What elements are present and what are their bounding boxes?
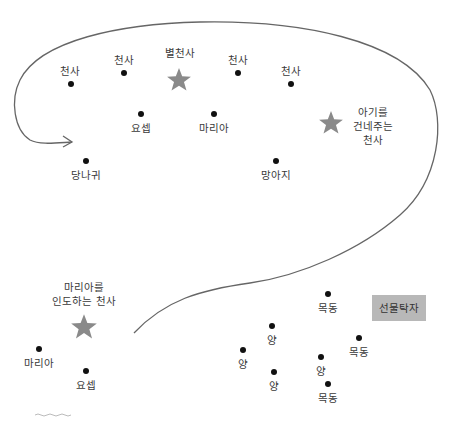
mary-guiding-angel-icon — [70, 313, 98, 341]
star-angel-icon — [166, 67, 192, 93]
nativity-diagram: 천사 천사 별천사 천사 천사 요셉 마리아 아기를 건네주는 천사 당나귀 망… — [0, 0, 451, 426]
sheep-dot-2 — [240, 347, 246, 353]
calf-dot — [273, 158, 279, 164]
sheep-dot-1 — [269, 323, 275, 329]
shepherd-label-2: 목동 — [349, 345, 369, 359]
mary-dot-top — [211, 111, 217, 117]
sheep-label-4: 양 — [269, 379, 279, 393]
sheep-dot-4 — [271, 369, 277, 375]
joseph-dot-bottom — [83, 368, 89, 374]
wavy-mark — [35, 414, 71, 416]
joseph-label-bottom: 요셉 — [76, 378, 96, 392]
shepherd-label-3: 목동 — [318, 391, 338, 405]
shepherd-dot-3 — [325, 381, 331, 387]
gift-table-box: 선물탁자 — [372, 295, 426, 321]
star-angel-label: 별천사 — [165, 46, 195, 60]
mary-label-top: 마리아 — [199, 121, 229, 135]
angel-dot-3 — [235, 70, 241, 76]
shepherd-dot-2 — [356, 335, 362, 341]
angel-label-4: 천사 — [281, 64, 301, 78]
donkey-dot — [83, 158, 89, 164]
sheep-label-3: 양 — [316, 364, 326, 378]
shepherd-dot-1 — [325, 291, 331, 297]
arrow-head-icon — [63, 136, 72, 147]
angel-label-2: 천사 — [114, 53, 134, 67]
baby-giving-angel-icon — [318, 110, 344, 136]
mary-dot-bottom — [36, 346, 42, 352]
calf-label: 망아지 — [261, 168, 291, 182]
joseph-dot-top — [138, 111, 144, 117]
sheep-label-2: 양 — [238, 357, 248, 371]
donkey-label: 당나귀 — [71, 168, 101, 182]
sheep-label-1: 양 — [267, 333, 277, 347]
joseph-label-top: 요셉 — [131, 121, 151, 135]
mary-label-bottom: 마리아 — [24, 356, 54, 370]
sheep-dot-3 — [318, 354, 324, 360]
angel-label-1: 천사 — [60, 64, 80, 78]
baby-giving-angel-label: 아기를 건네주는 천사 — [353, 105, 393, 147]
angel-dot-4 — [288, 81, 294, 87]
mary-guiding-angel-label: 마리아를 인도하는 천사 — [52, 280, 115, 308]
angel-dot-1 — [68, 81, 74, 87]
angel-label-3: 천사 — [228, 53, 248, 67]
shepherd-label-1: 목동 — [318, 301, 338, 315]
angel-dot-2 — [121, 70, 127, 76]
